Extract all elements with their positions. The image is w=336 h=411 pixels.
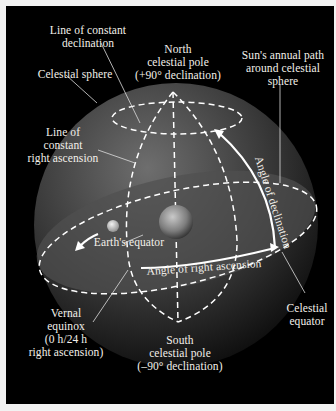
label-line: (+90° declination) [118, 69, 238, 82]
label-celestial-equator: Celestial equator [272, 302, 334, 328]
label-line: equinox [26, 320, 106, 333]
label-line-constant-ra: Line of constant right ascension [8, 126, 118, 165]
label-line: Celestial [272, 302, 334, 315]
diagram-panel: Line of constant declination North celes… [6, 6, 334, 404]
label-line: around celestial [228, 62, 334, 75]
sun [107, 220, 119, 232]
label-line: celestial pole [120, 347, 240, 360]
label-line: equator [272, 315, 334, 328]
label-line: South [120, 334, 240, 347]
label-line: (–90° declination) [120, 360, 240, 373]
label-line: celestial pole [118, 56, 238, 69]
earth [159, 205, 193, 239]
label-earths-equator: Earth's equator [84, 236, 174, 249]
label-south-pole: South celestial pole (–90° declination) [120, 334, 240, 373]
label-line: Sun's annual path [228, 49, 334, 62]
label-line: sphere [228, 75, 334, 88]
label-line: Line of [8, 126, 118, 139]
label-vernal-equinox: Vernal equinox (0 h/24 h right ascension… [26, 307, 106, 359]
label-sun-path: Sun's annual path around celestial spher… [228, 49, 334, 88]
label-north-pole: North celestial pole (+90° declination) [118, 43, 238, 82]
label-celestial-sphere: Celestial sphere [20, 68, 130, 81]
label-line: Line of constant [28, 24, 148, 37]
label-line: North [118, 43, 238, 56]
label-line: constant [8, 139, 118, 152]
label-line: Vernal [26, 307, 106, 320]
label-line: right ascension) [26, 346, 106, 359]
label-line: (0 h/24 h [26, 333, 106, 346]
label-line: Celestial sphere [20, 68, 130, 81]
label-line: right ascension [8, 152, 118, 165]
